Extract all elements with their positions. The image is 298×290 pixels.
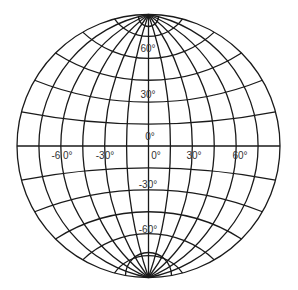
longitude-label-0: 0° (151, 150, 161, 161)
graticule-labels: 60° 30° 0° -30° -60° -6 0° -30° 0° 30° 6… (51, 43, 247, 235)
globe-diagram: 60° 30° 0° -30° -60° -6 0° -30° 0° 30° 6… (0, 0, 298, 290)
graticule-canvas: 60° 30° 0° -30° -60° -6 0° -30° 0° 30° 6… (0, 0, 298, 290)
latitude-label-60: 60° (140, 43, 155, 54)
longitude-label-60: 60° (232, 150, 247, 161)
latitude-label-0: 0° (145, 131, 155, 142)
latitude-label-minus-30: -30° (139, 179, 157, 190)
longitude-label-30: 30° (186, 150, 201, 161)
longitude-label-minus-60: -6 0° (51, 150, 72, 161)
longitude-label-minus-30: -30° (96, 150, 114, 161)
latitude-label-30: 30° (140, 89, 155, 100)
latitude-label-minus-60: -60° (139, 224, 157, 235)
